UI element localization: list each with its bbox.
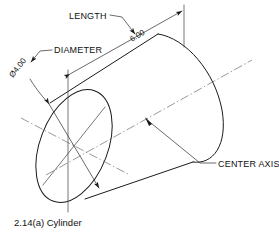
center-axis-label-leader — [146, 119, 216, 163]
cylinder-far-end-arc — [158, 34, 223, 162]
diameter-leader-line — [30, 79, 49, 104]
diameter-label: DIAMETER — [54, 45, 102, 55]
length-label: LENGTH — [69, 11, 107, 21]
figure-caption: 2.14(a) Cylinder — [14, 217, 82, 228]
length-label-leader — [110, 15, 135, 34]
diameter-dimension-value: Ø4.00 — [7, 56, 28, 79]
diameter-label-leader — [31, 50, 52, 62]
cylinder-technical-drawing: LENGTH DIAMETER CENTER AXIS 6.00 Ø4.00 2… — [0, 0, 279, 236]
figure-canvas: LENGTH DIAMETER CENTER AXIS 6.00 Ø4.00 2… — [0, 0, 279, 236]
center-axis-leader-arrowhead — [145, 117, 152, 126]
diameter-dimension-line — [49, 104, 99, 188]
length-dimension-value: 6.00 — [128, 28, 146, 44]
center-axis-label: CENTER AXIS — [218, 159, 279, 169]
center-axis-line — [46, 60, 252, 175]
